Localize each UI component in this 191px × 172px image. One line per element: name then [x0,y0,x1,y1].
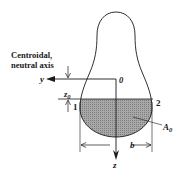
point-2-label: 2 [156,98,161,108]
width-b-label: b [130,140,135,150]
y-axis-arrow-icon [46,76,55,82]
point-1-label: 1 [73,102,78,112]
area-a0-label: A0 [162,122,173,133]
axis-title-line1: Centroidal, [11,50,52,60]
cross-section-diagram: Centroidal, neutral axis y 0 z0 1 2 A0 b… [0,0,191,172]
origin-label: 0 [119,75,124,85]
z-axis-label: z [112,160,117,170]
y-axis-label: y [39,74,45,84]
z0-label: z0 [63,89,71,100]
axis-title-line2: neutral axis [11,60,54,70]
